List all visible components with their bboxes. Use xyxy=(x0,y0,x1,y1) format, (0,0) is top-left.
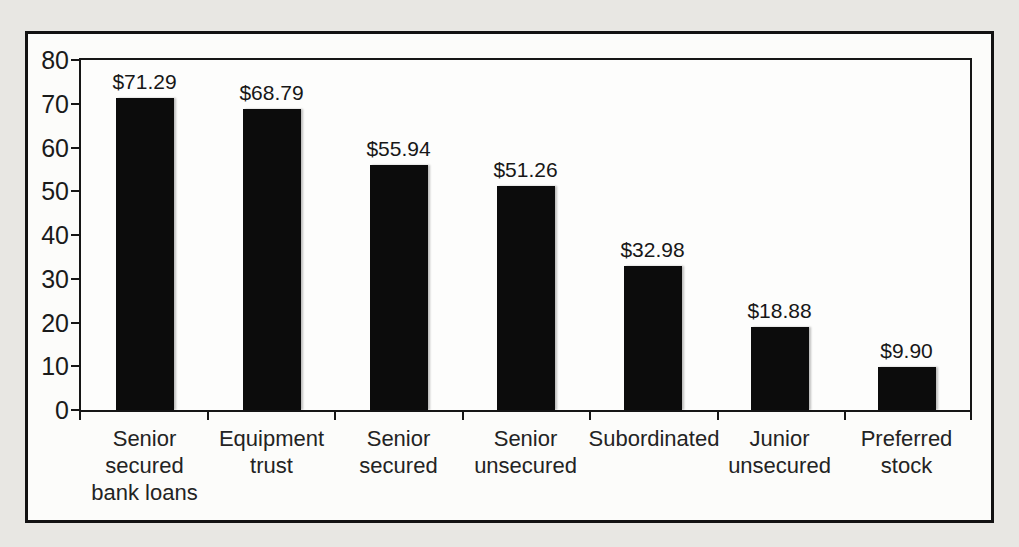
x-axis-tick-mark xyxy=(207,412,209,420)
x-axis-tick-mark xyxy=(589,412,591,420)
y-axis-tick-mark xyxy=(71,59,80,61)
bar-value-label: $51.26 xyxy=(456,158,596,182)
bar xyxy=(751,327,809,410)
bar-value-label: $9.90 xyxy=(837,339,977,363)
y-axis-tick-label: 30 xyxy=(28,265,69,293)
y-axis-tick-label: 60 xyxy=(28,134,69,162)
category-label: Junior unsecured xyxy=(716,425,844,479)
bar-value-label: $18.88 xyxy=(710,299,850,323)
y-axis-tick-label: 20 xyxy=(28,309,69,337)
y-axis-tick-label: 10 xyxy=(28,352,69,380)
bar xyxy=(497,186,555,410)
y-axis-tick-label: 80 xyxy=(28,46,69,74)
bar xyxy=(624,266,682,410)
x-axis-tick-mark xyxy=(844,412,846,420)
y-axis-tick-label: 70 xyxy=(28,90,69,118)
x-axis-tick-mark xyxy=(79,412,81,420)
y-axis-tick-label: 50 xyxy=(28,177,69,205)
category-label: Senior secured bank loans xyxy=(81,425,209,506)
y-axis-tick-mark xyxy=(71,147,80,149)
y-axis-tick-mark xyxy=(71,365,80,367)
y-axis-tick-label: 0 xyxy=(28,396,69,424)
bar xyxy=(243,109,301,410)
bar-value-label: $32.98 xyxy=(583,238,723,262)
bar-value-label: $55.94 xyxy=(329,137,469,161)
category-label: Senior unsecured xyxy=(462,425,590,479)
bar xyxy=(116,98,174,410)
category-label: Subordinated xyxy=(589,425,717,452)
y-axis-tick-mark xyxy=(71,103,80,105)
y-axis-tick-mark xyxy=(71,190,80,192)
y-axis-tick-label: 40 xyxy=(28,221,69,249)
x-axis-tick-mark xyxy=(462,412,464,420)
category-label: Preferred stock xyxy=(843,425,971,479)
x-axis-tick-mark xyxy=(970,412,972,420)
y-axis-tick-mark xyxy=(71,278,80,280)
bar-value-label: $68.79 xyxy=(202,81,342,105)
y-axis-tick-mark xyxy=(71,234,80,236)
x-axis-tick-mark xyxy=(717,412,719,420)
category-label: Equipment trust xyxy=(208,425,336,479)
page-background: 01020304050607080$71.29Senior secured ba… xyxy=(0,0,1019,547)
y-axis-tick-mark xyxy=(71,322,80,324)
bar-value-label: $71.29 xyxy=(75,70,215,94)
y-axis-tick-mark xyxy=(71,409,80,411)
category-label: Senior secured xyxy=(335,425,463,479)
figure-frame: 01020304050607080$71.29Senior secured ba… xyxy=(25,31,994,523)
bar xyxy=(370,165,428,410)
x-axis-tick-mark xyxy=(334,412,336,420)
bar xyxy=(878,367,936,410)
